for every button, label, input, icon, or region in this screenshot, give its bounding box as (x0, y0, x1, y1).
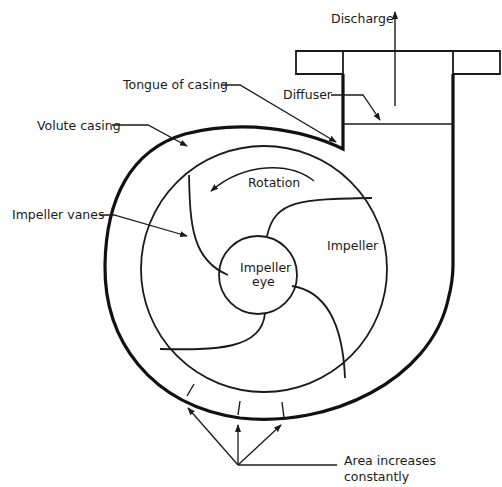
volute-casing-wall (105, 74, 453, 419)
label-tongue-of-casing: Tongue of casing (122, 77, 228, 92)
impeller-vanes-leader (100, 215, 187, 236)
label-impeller-vanes: Impeller vanes (12, 207, 104, 222)
label-impeller: Impeller (327, 238, 379, 253)
area-arrows (188, 408, 337, 465)
label-area-increases-2: constantly (344, 469, 410, 484)
label-rotation: Rotation (248, 175, 300, 190)
label-diffuser: Diffuser (283, 87, 333, 102)
label-area-increases-1: Area increases (344, 453, 436, 468)
label-volute-casing: Volute casing (37, 118, 121, 133)
discharge-flange (296, 51, 500, 74)
pump-diagram: Discharge Tongue of casing Diffuser Volu… (0, 0, 502, 487)
label-impeller-eye-2: eye (252, 274, 275, 289)
label-discharge: Discharge (331, 11, 394, 26)
label-impeller-eye-1: Impeller (240, 260, 292, 275)
diffuser-leader (331, 95, 380, 120)
